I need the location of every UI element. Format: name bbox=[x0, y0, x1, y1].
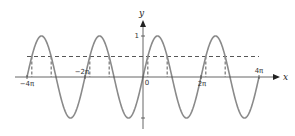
x-tick-label: −2π bbox=[75, 68, 90, 76]
x-axis-label: x bbox=[283, 72, 288, 82]
x-axis-arrow-icon bbox=[273, 74, 280, 80]
dashed-vertical-lines bbox=[32, 57, 225, 78]
sine-chart: −4π−2π02π4π 1 x y bbox=[0, 0, 295, 136]
x-tick-label: −4π bbox=[20, 80, 35, 88]
x-tick-label: 0 bbox=[145, 79, 149, 87]
x-tick-label: 4π bbox=[255, 67, 264, 75]
x-tick-label: 2π bbox=[198, 80, 207, 88]
y-axis-label: y bbox=[138, 8, 145, 18]
y-axis-arrow-icon bbox=[140, 20, 146, 27]
y-tick-label: 1 bbox=[135, 32, 139, 40]
